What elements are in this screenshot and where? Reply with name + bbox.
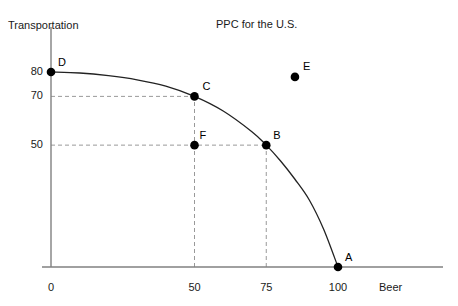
chart-plot-area bbox=[0, 0, 458, 306]
data-point-E[interactable] bbox=[291, 73, 300, 82]
y-tick-50: 50 bbox=[17, 138, 43, 150]
y-tick-70: 70 bbox=[17, 89, 43, 101]
point-label-B: B bbox=[273, 129, 280, 141]
chart-canvas: PPC for the U.S. Transportation Beer 507… bbox=[0, 0, 458, 306]
y-tick-80: 80 bbox=[17, 65, 43, 77]
x-tick-50: 50 bbox=[180, 281, 210, 293]
data-point-F[interactable] bbox=[190, 141, 199, 150]
x-tick-0: 0 bbox=[36, 281, 66, 293]
data-points-group bbox=[47, 68, 343, 272]
data-point-C[interactable] bbox=[190, 92, 199, 101]
axes-group bbox=[42, 27, 443, 267]
data-point-D[interactable] bbox=[47, 68, 56, 77]
point-label-A: A bbox=[345, 251, 352, 263]
point-label-D: D bbox=[58, 56, 66, 68]
guide-lines-group bbox=[51, 96, 266, 267]
data-point-B[interactable] bbox=[262, 141, 271, 150]
point-label-E: E bbox=[303, 60, 310, 72]
point-label-F: F bbox=[200, 129, 207, 141]
x-tick-75: 75 bbox=[251, 281, 281, 293]
x-tick-100: 100 bbox=[323, 281, 353, 293]
point-label-C: C bbox=[203, 80, 211, 92]
data-point-A[interactable] bbox=[334, 263, 343, 272]
